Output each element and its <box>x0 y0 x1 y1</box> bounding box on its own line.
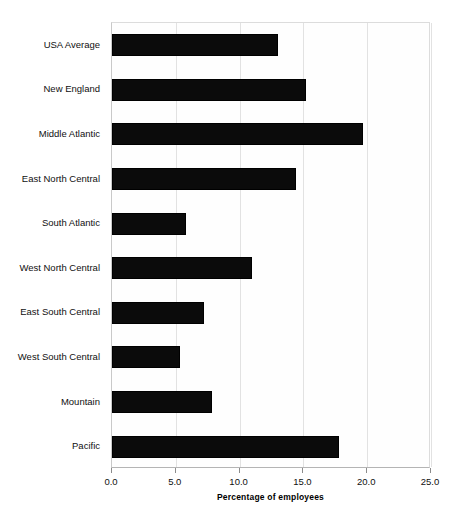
y-axis-label: West North Central <box>0 245 106 290</box>
y-axis-label: Mountain <box>0 379 106 424</box>
x-axis-label: 20.0 <box>357 476 376 487</box>
bar-row <box>112 68 429 113</box>
bar-chart: USA AverageNew EnglandMiddle AtlanticEas… <box>0 0 464 527</box>
bar[interactable] <box>112 257 252 279</box>
y-axis-tick-labels: USA AverageNew EnglandMiddle AtlanticEas… <box>0 22 106 468</box>
y-axis-label: West South Central <box>0 334 106 379</box>
bar-row <box>112 23 429 68</box>
y-axis-label: East North Central <box>0 156 106 201</box>
x-axis-label: 15.0 <box>293 476 312 487</box>
bar-row <box>112 335 429 380</box>
bar[interactable] <box>112 168 296 190</box>
x-axis-tick-mark <box>111 468 112 473</box>
bar[interactable] <box>112 123 363 145</box>
x-axis-tick-mark <box>430 468 431 473</box>
plot-area <box>111 22 430 468</box>
x-axis-tick-mark <box>239 468 240 473</box>
x-axis-label: 25.0 <box>421 476 440 487</box>
y-axis-label: East South Central <box>0 290 106 335</box>
bar[interactable] <box>112 346 180 368</box>
bar-row <box>112 246 429 291</box>
y-axis-label: New England <box>0 67 106 112</box>
bar-row <box>112 380 429 425</box>
bar[interactable] <box>112 436 339 458</box>
bar-row <box>112 112 429 157</box>
bar[interactable] <box>112 34 278 56</box>
x-axis-tick-mark <box>302 468 303 473</box>
bar-row <box>112 157 429 202</box>
bar[interactable] <box>112 213 186 235</box>
bar-row <box>112 424 429 469</box>
x-axis-title: Percentage of employees <box>111 492 430 502</box>
bar[interactable] <box>112 79 306 101</box>
y-axis-label: USA Average <box>0 22 106 67</box>
bar[interactable] <box>112 302 204 324</box>
x-axis-tick-mark <box>175 468 176 473</box>
x-axis-tick-mark <box>366 468 367 473</box>
bar-row <box>112 201 429 246</box>
gridline <box>431 23 432 467</box>
x-axis-label: 5.0 <box>168 476 181 487</box>
x-axis-label: 10.0 <box>229 476 248 487</box>
bar-row <box>112 291 429 336</box>
x-axis-tick-labels: 0.05.010.015.020.025.0 <box>0 476 464 490</box>
x-axis-label: 0.0 <box>104 476 117 487</box>
y-axis-label: South Atlantic <box>0 200 106 245</box>
y-axis-label: Middle Atlantic <box>0 111 106 156</box>
y-axis-label: Pacific <box>0 423 106 468</box>
bar[interactable] <box>112 391 212 413</box>
